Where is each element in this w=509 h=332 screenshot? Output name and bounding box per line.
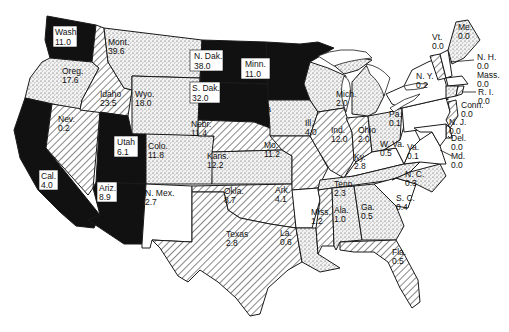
svg-text:0.0: 0.0 [451, 160, 463, 170]
svg-text:0.3: 0.3 [405, 178, 417, 188]
svg-text:0.5: 0.5 [392, 256, 404, 266]
svg-text:0.5: 0.5 [361, 211, 373, 221]
svg-text:4.0: 4.0 [41, 180, 53, 190]
svg-text:S. Dak.: S. Dak. [192, 83, 220, 93]
svg-text:2.0: 2.0 [336, 98, 348, 108]
svg-text:0.5: 0.5 [380, 148, 392, 158]
label-wyo: Wyo.18.0 [135, 89, 154, 108]
svg-text:8.7: 8.7 [224, 195, 236, 205]
svg-text:11.0: 11.0 [245, 69, 261, 79]
svg-text:4.5: 4.5 [287, 85, 299, 95]
svg-text:2.8: 2.8 [226, 238, 238, 248]
svg-text:11.4: 11.4 [191, 128, 207, 138]
svg-text:4.0: 4.0 [305, 127, 317, 137]
label-del: Del.0.0 [448, 133, 466, 152]
state-fla [340, 240, 420, 308]
label-ga: Ga.0.5 [361, 202, 375, 221]
svg-text:1.0: 1.0 [334, 214, 346, 224]
svg-text:Utah: Utah [117, 137, 135, 147]
svg-text:32.0: 32.0 [192, 93, 209, 103]
svg-text:0.1: 0.1 [389, 118, 401, 128]
svg-text:11.2: 11.2 [264, 149, 280, 159]
svg-text:17.6: 17.6 [62, 75, 79, 85]
state-mass [446, 76, 468, 86]
svg-text:0.0: 0.0 [458, 31, 470, 41]
svg-text:4.1: 4.1 [275, 194, 287, 204]
label-mo: Mo.11.2 [264, 140, 280, 159]
svg-text:2.3: 2.3 [334, 188, 346, 198]
label-utah: Utah 6.1 [114, 136, 138, 157]
label-sdak: S. Dak. 32.0 [190, 82, 220, 103]
label-cal: Cal. 4.0 [39, 170, 58, 190]
svg-text:11.0: 11.0 [55, 37, 71, 47]
svg-text:8.9: 8.9 [99, 192, 111, 202]
label-vt: Vt.0.0 [432, 32, 444, 51]
svg-text:12.2: 12.2 [207, 160, 224, 170]
label-minn: Minn. 11.0 [241, 58, 270, 79]
svg-text:2.7: 2.7 [145, 197, 157, 207]
svg-text:0.2: 0.2 [416, 80, 428, 90]
svg-text:38.0: 38.0 [194, 61, 211, 71]
label-iowa: Iowa19.9 [253, 104, 271, 123]
svg-text:Minn.: Minn. [245, 59, 266, 69]
svg-text:1.2: 1.2 [311, 216, 323, 226]
label-ariz: Ariz. 8.9 [97, 182, 117, 202]
svg-text:0.4: 0.4 [396, 202, 408, 212]
label-pa: Pa.0.1 [389, 109, 402, 128]
svg-text:12.0: 12.0 [331, 134, 348, 144]
label-wash: Wash. 11.0 [53, 26, 79, 47]
svg-text:N. Dak.: N. Dak. [194, 51, 222, 61]
svg-text:18.0: 18.0 [135, 98, 152, 108]
svg-text:Wash.: Wash. [55, 27, 79, 37]
svg-text:0.1: 0.1 [407, 151, 419, 161]
svg-text:0.6: 0.6 [280, 237, 292, 247]
label-va: Va.0.1 [407, 142, 419, 161]
label-la: La.0.6 [280, 228, 292, 247]
svg-text:11.8: 11.8 [148, 150, 164, 160]
svg-text:39.6: 39.6 [108, 46, 125, 56]
svg-text:2.0: 2.0 [358, 134, 370, 144]
state-ri [456, 86, 464, 96]
label-ky: Ky.2.8 [354, 152, 366, 171]
label-ndak: N. Dak. 38.0 [190, 50, 223, 71]
svg-text:19.9: 19.9 [253, 113, 270, 123]
us-choropleth-map: Wash. 11.0 Cal. 4.0 Utah 6.1 Ariz. 8.9 N… [0, 0, 509, 332]
label-sc: S. C.0.4 [396, 193, 415, 212]
svg-text:6.1: 6.1 [117, 147, 129, 157]
svg-text:2.8: 2.8 [354, 161, 366, 171]
svg-text:23.5: 23.5 [100, 98, 117, 108]
svg-text:0.2: 0.2 [58, 123, 70, 133]
svg-text:0.0: 0.0 [432, 41, 444, 51]
